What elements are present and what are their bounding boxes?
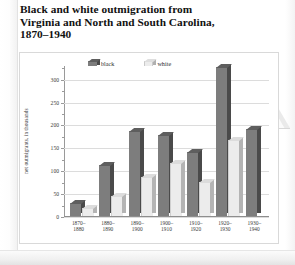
y-axis-tick-label: 0 (56, 214, 59, 220)
y-axis-tick-label: 200 (51, 122, 59, 128)
page-bottom-margin (0, 250, 295, 265)
bar-white (199, 182, 210, 216)
x-axis-tick-label: 1890–1900 (130, 220, 143, 233)
bar-black (158, 135, 169, 216)
bar-black (216, 67, 227, 216)
gridline (64, 217, 269, 218)
y-axis-tick (61, 217, 64, 218)
bar-black (99, 165, 110, 216)
figure-title-line-3: 1870–1940 (20, 28, 270, 41)
bar-group: 1900–1910 (152, 65, 181, 216)
bar-white (228, 140, 239, 216)
chart-frame: black white net outmigrants, in thousand… (19, 52, 279, 244)
figure-title-line-1: Black and white outmigration from (20, 3, 270, 16)
x-axis-tick-label: 1900–1910 (160, 220, 173, 233)
bar-white (82, 208, 93, 216)
bar-group: 1930–1940 (240, 65, 269, 216)
bar-black (70, 203, 81, 216)
page-left-margin (0, 0, 18, 265)
bar-white (141, 177, 152, 216)
x-axis-tick-label: 1910–1920 (189, 220, 202, 233)
bar-black (129, 131, 140, 216)
y-axis-title: net outmigrants, in thousands (23, 108, 29, 173)
figure-title: Black and white outmigration from Virgin… (20, 3, 270, 41)
bar-black (187, 152, 198, 216)
bar-group: 1870–1880 (64, 65, 93, 216)
y-axis-tick-label: 250 (51, 100, 59, 106)
bar-group: 1920–1930 (210, 65, 239, 216)
bar-group: 1910–1920 (181, 65, 210, 216)
x-axis-tick-label: 1930–1940 (248, 220, 261, 233)
figure-title-line-2: Virginia and North and South Carolina, (20, 16, 270, 29)
y-axis-tick-label: 50 (53, 191, 59, 197)
bar-group: 1880–1890 (93, 65, 122, 216)
scanned-page: Black and white outmigration from Virgin… (0, 0, 295, 265)
bar-black (246, 129, 257, 216)
y-axis-tick-label: 300 (51, 77, 59, 83)
bar-group: 1890–1900 (123, 65, 152, 216)
bar-white (111, 196, 122, 216)
x-axis-tick-label: 1880–1890 (101, 220, 114, 233)
plot-area: 050100150200250300 1870–18801880–1890189… (64, 66, 269, 217)
y-axis-tick-label: 150 (51, 145, 59, 151)
x-axis-tick-label: 1870–1880 (72, 220, 85, 233)
y-axis-tick-label: 100 (51, 168, 59, 174)
bar-white (170, 163, 181, 216)
x-axis-tick-label: 1920–1930 (218, 220, 231, 233)
